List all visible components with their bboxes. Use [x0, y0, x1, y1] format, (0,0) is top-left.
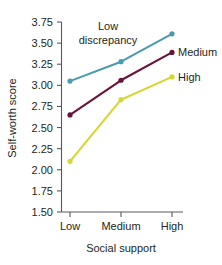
series-label-medium: Medium [178, 46, 217, 58]
y-axis-title: Self-worth score [6, 78, 18, 157]
y-tick-label: 2.25 [32, 143, 53, 155]
y-axis-ticks [57, 22, 62, 212]
y-tick-label: 1.75 [32, 185, 53, 197]
annotation-low-discrepancy-line1: Low [98, 20, 118, 32]
line-chart: Self-worth score 3.75 3.50 3.25 3.00 2.7… [0, 0, 222, 265]
series-high [67, 74, 174, 164]
data-point-low-discrepancy-high [169, 31, 174, 36]
y-tick-label: 2.75 [32, 100, 53, 112]
y-tick-label: 3.50 [32, 37, 53, 49]
y-tick-label: 3.75 [32, 16, 53, 28]
data-point-low-discrepancy-low [67, 79, 72, 84]
y-tick-label: 1.50 [32, 206, 53, 218]
x-axis-ticks [70, 212, 172, 217]
y-tick-label: 3.00 [32, 79, 53, 91]
x-tick-label-low: Low [60, 220, 80, 232]
y-axis-tick-labels: 3.75 3.50 3.25 3.00 2.75 2.50 2.25 2.00 … [32, 16, 53, 218]
x-axis-title: Social support [86, 242, 156, 254]
x-tick-label-high: High [161, 220, 184, 232]
y-tick-label: 3.25 [32, 58, 53, 70]
data-point-medium-high [169, 50, 174, 55]
annotation-low-discrepancy: Low discrepancy [79, 20, 138, 46]
series-label-high: High [178, 71, 201, 83]
x-axis-tick-labels: Low Medium High [60, 220, 183, 232]
x-tick-label-medium: Medium [101, 220, 140, 232]
series-high-line [70, 77, 172, 161]
annotation-low-discrepancy-line2: discrepancy [79, 34, 138, 46]
data-point-high-high [169, 74, 174, 79]
y-tick-label: 2.00 [32, 164, 53, 176]
data-point-medium-low [67, 112, 72, 117]
data-point-medium-medium [118, 78, 123, 83]
data-point-high-medium [118, 97, 123, 102]
data-point-low-discrepancy-medium [118, 59, 123, 64]
data-point-high-low [67, 159, 72, 164]
chart-container: Self-worth score 3.75 3.50 3.25 3.00 2.7… [0, 0, 222, 265]
y-tick-label: 2.50 [32, 122, 53, 134]
